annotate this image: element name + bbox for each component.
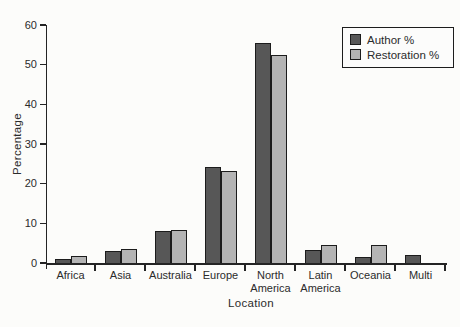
author-series-swatch: [350, 34, 361, 45]
y-tick-mark: [40, 104, 46, 106]
x-axis-title: Location: [228, 297, 274, 309]
bar-restoration-north-america: [271, 55, 287, 263]
legend-label-author: Author %: [367, 33, 414, 47]
y-tick-label: 50: [7, 58, 37, 71]
y-tick-mark: [40, 143, 46, 145]
restoration-series-swatch: [350, 49, 361, 60]
bar-author-europe: [205, 167, 221, 263]
y-tick-label: 10: [7, 217, 37, 230]
bar-author-asia: [105, 251, 121, 263]
bar-restoration-asia: [121, 249, 137, 263]
legend-item-author: Author %: [350, 32, 446, 47]
y-tick-mark: [40, 223, 46, 225]
y-tick-label: 20: [7, 177, 37, 190]
bar-author-latin-america: [305, 250, 321, 263]
legend: Author % Restoration %: [342, 27, 454, 68]
y-tick-label: 30: [7, 138, 37, 151]
bar-author-multi: [405, 255, 421, 263]
bar-restoration-oceania: [371, 245, 387, 263]
bar-author-north-america: [255, 43, 271, 263]
bar-restoration-europe: [221, 171, 237, 263]
bar-author-oceania: [355, 257, 371, 263]
x-category-label: Multi: [388, 269, 454, 282]
y-tick-mark: [40, 183, 46, 185]
y-axis-line: [46, 25, 48, 269]
bar-restoration-africa: [71, 256, 87, 263]
legend-item-restoration: Restoration %: [350, 47, 446, 62]
bar-chart-figure: Percentage Location 0102030405060AfricaA…: [0, 0, 460, 327]
y-tick-label: 40: [7, 98, 37, 111]
y-tick-label: 0: [7, 257, 37, 270]
legend-label-restoration: Restoration %: [367, 48, 439, 62]
y-tick-mark: [40, 64, 46, 66]
y-tick-label: 60: [7, 19, 37, 32]
bar-restoration-latin-america: [321, 245, 337, 263]
y-tick-mark: [40, 262, 46, 264]
bar-author-australia: [155, 231, 171, 263]
x-axis-line: [46, 263, 448, 265]
bar-author-africa: [55, 259, 71, 263]
bar-restoration-australia: [171, 230, 187, 263]
y-tick-mark: [40, 24, 46, 26]
